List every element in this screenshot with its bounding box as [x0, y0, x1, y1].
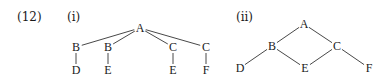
- node-B: B: [268, 39, 276, 53]
- edge-C-E: [310, 49, 332, 64]
- node-C: C: [333, 39, 341, 53]
- node-F: F: [203, 63, 210, 77]
- node-A: A: [136, 21, 145, 35]
- node-C2: C: [202, 40, 210, 54]
- node-B1: B: [72, 40, 80, 54]
- edge-A-B: [277, 27, 299, 42]
- node-D: D: [236, 61, 245, 75]
- edge-A-C: [309, 27, 332, 42]
- tree-panel-ii: ABCDEF: [236, 17, 373, 75]
- tree-diagrams: ABBCCDEEFABCDEF: [0, 0, 387, 77]
- edge-C-F: [342, 49, 364, 64]
- node-D: D: [72, 63, 81, 77]
- node-B2: B: [104, 40, 112, 54]
- node-E1: E: [104, 63, 111, 77]
- edge-B-D: [245, 49, 267, 64]
- edge-B-E: [277, 49, 300, 64]
- node-E2: E: [169, 63, 176, 77]
- node-E: E: [301, 61, 308, 75]
- tree-panel-i: ABBCCDEEF: [72, 21, 210, 77]
- node-C1: C: [169, 40, 177, 54]
- node-A: A: [300, 17, 309, 31]
- node-F: F: [366, 61, 373, 75]
